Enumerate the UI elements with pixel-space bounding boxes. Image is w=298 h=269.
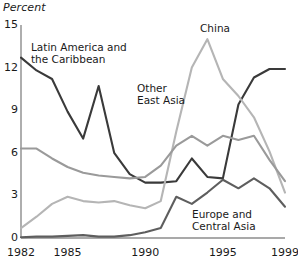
annotation-europe-central-asia: Europe and Central Asia <box>192 209 256 232</box>
chart-figure: Percent 15 12 9 6 3 0 1982 1985 1990 199… <box>0 0 298 269</box>
annotation-latin-america: Latin America and the Caribbean <box>31 42 127 65</box>
series-line-china <box>21 39 285 228</box>
annotation-other-east-asia: Other East Asia <box>137 83 185 106</box>
series-line-other-east-asia <box>21 136 285 181</box>
annotation-china: China <box>200 23 230 35</box>
